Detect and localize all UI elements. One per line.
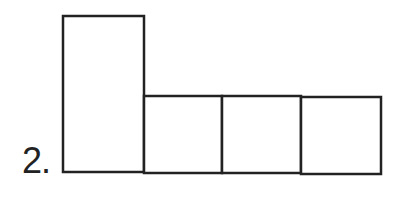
square-2 [222,96,301,173]
tall-rectangle [63,16,144,172]
square-3 [301,97,381,174]
rectangle-net-figure [0,0,405,209]
square-1 [144,96,222,173]
